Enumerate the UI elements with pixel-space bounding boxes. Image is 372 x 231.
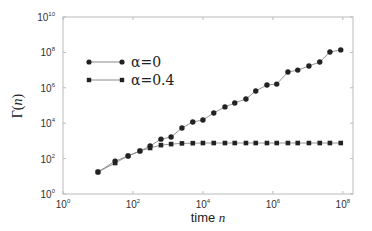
circle-marker-icon bbox=[211, 110, 216, 115]
square-marker-icon bbox=[223, 141, 228, 146]
square-marker-icon bbox=[244, 141, 249, 146]
log-log-chart: 100102104106108 1001021041061081010 α=0 … bbox=[0, 0, 372, 231]
square-marker-icon bbox=[232, 141, 237, 146]
circle-marker-icon bbox=[317, 59, 322, 64]
y-tick-label: 1010 bbox=[37, 11, 55, 23]
circle-marker-icon bbox=[200, 117, 205, 122]
square-marker-icon bbox=[286, 141, 291, 146]
y-axis-label: Γ(n) bbox=[10, 93, 26, 118]
square-marker-icon bbox=[138, 149, 143, 154]
square-marker-icon bbox=[317, 141, 322, 146]
square-marker-icon bbox=[265, 141, 270, 146]
x-axis-label-var: n bbox=[219, 210, 226, 225]
circle-marker-icon bbox=[306, 63, 311, 68]
circle-marker-icon bbox=[253, 88, 258, 93]
square-marker-icon bbox=[159, 143, 164, 148]
circle-marker-icon bbox=[274, 81, 279, 86]
square-marker-icon bbox=[190, 141, 195, 146]
y-axis-label-close: ) bbox=[10, 93, 26, 98]
y-axis-label-text: Γ( bbox=[10, 105, 26, 118]
circle-marker-icon bbox=[285, 69, 290, 74]
y-axis-ticks: 1001021041061081010 bbox=[37, 11, 353, 200]
x-tick-label: 102 bbox=[126, 198, 141, 210]
series-1 bbox=[96, 141, 343, 175]
circle-marker-icon bbox=[158, 136, 163, 141]
square-marker-icon bbox=[211, 141, 216, 146]
y-tick-label: 106 bbox=[41, 82, 56, 94]
square-marker-icon bbox=[113, 161, 118, 166]
square-marker-icon bbox=[253, 141, 258, 146]
x-axis-label: time n bbox=[191, 210, 226, 225]
y-tick-label: 100 bbox=[41, 188, 56, 200]
square-marker-icon bbox=[201, 141, 206, 146]
square-marker-icon bbox=[120, 78, 124, 82]
square-marker-icon bbox=[148, 146, 153, 151]
x-tick-label: 100 bbox=[56, 198, 71, 210]
x-axis-label-text: time bbox=[191, 210, 219, 225]
legend-entry-alpha-0: α=0 bbox=[86, 54, 161, 70]
x-axis-ticks: 100102104106108 bbox=[56, 17, 351, 210]
y-tick-label: 108 bbox=[41, 46, 56, 58]
circle-marker-icon bbox=[338, 47, 343, 52]
legend: α=0 α=0.4 bbox=[86, 54, 174, 88]
legend-entry-alpha-0.4: α=0.4 bbox=[87, 72, 175, 88]
circle-marker-icon bbox=[86, 59, 91, 64]
x-tick-label: 106 bbox=[266, 198, 281, 210]
circle-marker-icon bbox=[179, 125, 184, 130]
circle-marker-icon bbox=[168, 134, 173, 139]
circle-marker-icon bbox=[264, 82, 269, 87]
circle-marker-icon bbox=[190, 119, 195, 124]
square-marker-icon bbox=[169, 142, 174, 147]
square-marker-icon bbox=[274, 141, 279, 146]
y-tick-label: 104 bbox=[41, 117, 56, 129]
legend-label: α=0 bbox=[131, 54, 161, 70]
legend-label: α=0.4 bbox=[131, 72, 175, 88]
circle-marker-icon bbox=[243, 96, 248, 101]
circle-marker-icon bbox=[222, 104, 227, 109]
square-marker-icon bbox=[307, 141, 312, 146]
x-tick-label: 108 bbox=[336, 198, 351, 210]
square-marker-icon bbox=[87, 78, 91, 82]
circle-marker-icon bbox=[295, 67, 300, 72]
circle-marker-icon bbox=[232, 100, 237, 105]
square-marker-icon bbox=[338, 141, 343, 146]
square-marker-icon bbox=[295, 141, 300, 146]
square-marker-icon bbox=[96, 170, 101, 175]
square-marker-icon bbox=[126, 154, 131, 159]
y-axis-label-var: n bbox=[10, 98, 25, 105]
square-marker-icon bbox=[180, 141, 185, 146]
square-marker-icon bbox=[328, 141, 333, 146]
x-tick-label: 104 bbox=[196, 198, 211, 210]
y-tick-label: 102 bbox=[41, 153, 56, 165]
circle-marker-icon bbox=[327, 49, 332, 54]
series-line bbox=[98, 143, 341, 172]
circle-marker-icon bbox=[119, 59, 124, 64]
